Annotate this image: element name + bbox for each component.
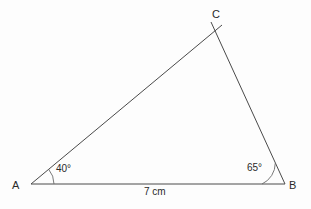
- side-ac-line: [31, 25, 222, 184]
- angle-arc-a: [49, 169, 54, 184]
- angle-label-b: 65°: [247, 163, 262, 173]
- side-label-ab: 7 cm: [144, 187, 166, 197]
- angle-arc-b: [262, 163, 275, 184]
- vertex-label-a: A: [12, 180, 19, 191]
- vertex-label-c: C: [212, 9, 220, 20]
- triangle-diagram: [0, 0, 311, 209]
- vertex-label-b: B: [289, 180, 296, 191]
- angle-label-a: 40°: [56, 164, 71, 174]
- side-bc-line: [211, 22, 285, 184]
